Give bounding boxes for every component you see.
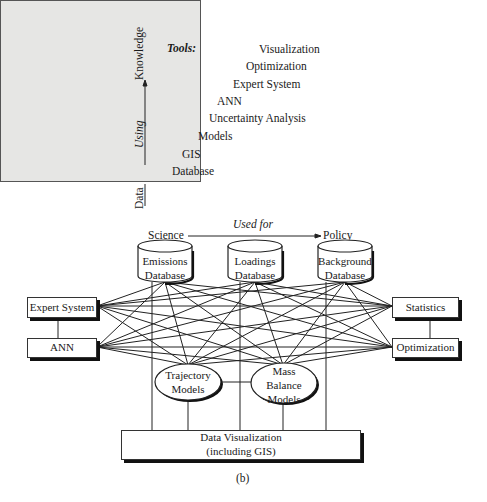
trajectory-models-line2: Models <box>160 383 216 397</box>
statistics-box: Statistics <box>392 297 459 318</box>
background-database-line1: Background <box>314 254 376 268</box>
expert-system-box: Expert System <box>27 297 97 318</box>
loadings-database: Loadings Database <box>228 254 282 283</box>
background-database-line2: Database <box>314 268 376 282</box>
emissions-database-line1: Emissions <box>138 254 192 268</box>
trajectory-models: Trajectory Models <box>160 369 216 397</box>
connection-lines <box>0 0 487 502</box>
loadings-database-line1: Loadings <box>228 254 282 268</box>
loadings-database-line2: Database <box>228 268 282 282</box>
background-database: Background Database <box>314 254 376 283</box>
data-visualization-box: Data Visualization (including GIS) <box>121 430 361 460</box>
mass-balance-models-line2: Balance <box>256 379 312 393</box>
data-visualization-line2: (including GIS) <box>206 445 275 459</box>
emissions-database-line2: Database <box>138 268 192 282</box>
emissions-database: Emissions Database <box>138 254 192 283</box>
mass-balance-models: Mass Balance Models <box>256 365 312 406</box>
mass-balance-models-line1: Mass <box>256 365 312 379</box>
ann-box: ANN <box>27 338 97 358</box>
trajectory-models-line1: Trajectory <box>160 369 216 383</box>
data-visualization-line1: Data Visualization <box>200 431 281 445</box>
caption-b: (b) <box>236 472 249 484</box>
mass-balance-models-line3: Models <box>256 393 312 407</box>
optimization-box: Optimization <box>392 338 459 358</box>
